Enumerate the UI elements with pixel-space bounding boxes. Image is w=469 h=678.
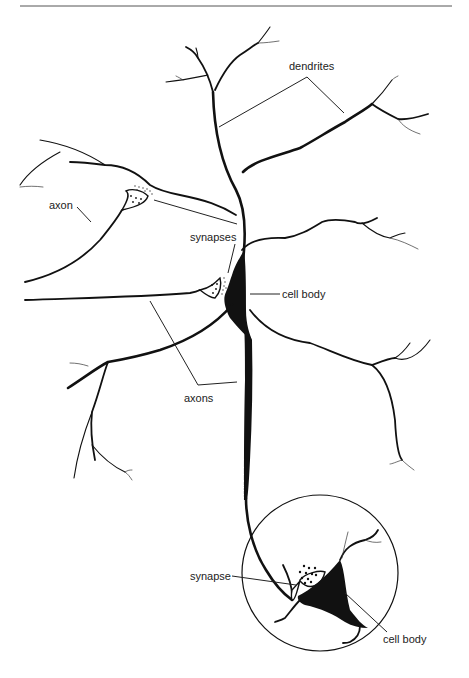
axon-label: axon (49, 199, 73, 211)
label-axons: axons (150, 301, 237, 404)
label-cell-body-upper: cell body (250, 288, 326, 300)
synapse-terminal-upper (122, 190, 148, 210)
neuron-diagram: dendrites axon synapses cell body axons (0, 0, 469, 678)
label-axon: axon (49, 199, 91, 222)
main-neuron (20, 27, 430, 600)
cell-body-upper (224, 250, 252, 340)
dendrites-label: dendrites (289, 60, 335, 72)
axons-label: axons (184, 392, 214, 404)
synapses-label: synapses (190, 231, 237, 243)
label-dendrites: dendrites (219, 60, 344, 127)
label-synapses: synapses (154, 200, 237, 273)
inset-cell-body (298, 560, 368, 628)
synapse-terminal-lower (200, 278, 221, 298)
cell-body-lower-label: cell body (383, 633, 427, 645)
synapse-inset (242, 495, 398, 651)
cell-body-upper-label: cell body (282, 288, 326, 300)
axon-main (244, 325, 252, 500)
synapse-label: synapse (190, 570, 231, 582)
